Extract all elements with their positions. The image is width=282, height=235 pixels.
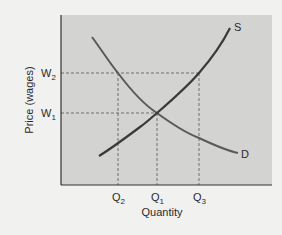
q3-label: Q3 <box>193 191 207 206</box>
demand-label: D <box>241 148 249 160</box>
q1-label: Q1 <box>151 191 165 206</box>
w2-label: W2 <box>41 67 56 82</box>
x-axis-title: Quantity <box>142 206 183 218</box>
q2-label: Q2 <box>112 191 126 206</box>
y-axis-title: Price (wages) <box>23 66 35 133</box>
supply-demand-chart: S D W2 W1 Q2 Q1 Q3 Quantity Price (wages… <box>0 0 282 235</box>
supply-label: S <box>234 21 241 33</box>
w1-label: W1 <box>41 107 56 122</box>
